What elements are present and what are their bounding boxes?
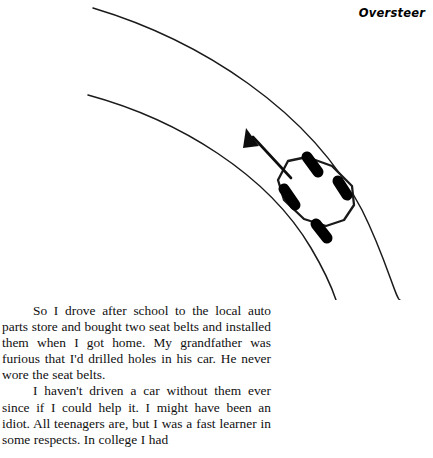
paragraph: So I drove after school to the local aut… — [2, 303, 271, 383]
intended-direction-arrow — [243, 128, 291, 178]
car-oversteer-diagram — [0, 0, 433, 300]
front-right-wheel — [338, 181, 347, 195]
road-outer-edge — [93, 8, 400, 300]
body-text-block: So I drove after school to the local aut… — [2, 303, 271, 448]
paragraph: I haven't driven a car without them ever… — [2, 383, 271, 447]
car-body-group — [278, 157, 354, 238]
